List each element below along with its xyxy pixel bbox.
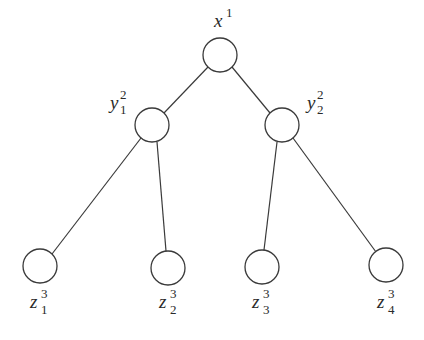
node-z2 [151,251,185,285]
label-z2-sup: 3 [170,286,177,301]
label-y1-sub: 1 [120,102,127,117]
edge-y1-z2 [157,142,166,251]
label-y2-sup: 2 [317,87,324,102]
label-y2-sub: 2 [317,102,324,117]
label-z1-sub: 1 [41,302,48,317]
edges [52,67,376,254]
nodes [23,38,403,285]
label-z2: z [158,291,167,312]
label-z4-sup: 3 [388,286,395,301]
edge-y2-z4 [293,138,376,252]
label-z1: z [29,291,38,312]
node-z1 [23,249,57,283]
label-z3-sub: 3 [263,302,270,317]
node-y1 [135,108,169,142]
edge-y2-z3 [264,142,277,250]
edge-y1-z1 [52,138,141,254]
label-y1-sup: 2 [120,87,127,102]
label-y1: y [108,92,119,113]
label-z4-sub: 4 [388,302,395,317]
label-y2: y [305,92,316,113]
label-z4: z [376,291,385,312]
node-root [203,38,237,72]
label-z1-sup: 3 [41,286,48,301]
label-root-sup: 1 [226,5,233,20]
edge-root-y2 [232,67,270,113]
edge-root-y1 [164,67,208,113]
tree-diagram: x 1 y 2 1 y 2 2 z 3 1 z 3 2 z 3 3 z 3 4 [0,0,424,340]
node-z4 [369,248,403,282]
label-root: x [213,10,223,31]
label-z2-sub: 2 [170,302,177,317]
node-z3 [245,250,279,284]
label-z3: z [251,291,260,312]
node-y2 [265,108,299,142]
label-z3-sup: 3 [263,286,270,301]
